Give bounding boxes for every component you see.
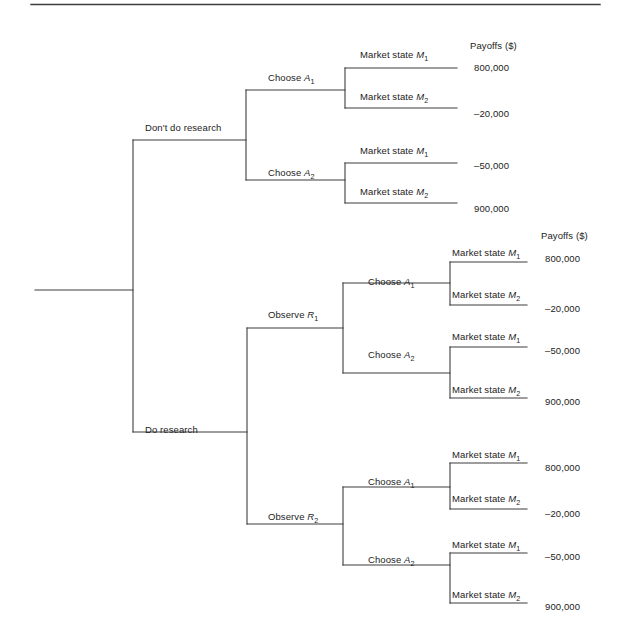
decision-tree-figure: Payoffs ($) Payoffs ($) Don't do researc…	[0, 0, 626, 643]
branch-label-choose-a2-r2: Choose A2	[368, 555, 415, 568]
choose-a1-nores-subscript: 1	[311, 77, 315, 86]
branch-label-choose-a2-r1: Choose A2	[368, 350, 415, 363]
branch-label-state-m1-a1-r2: Market state M1	[452, 450, 520, 463]
choose-a2-r1-text: Choose	[368, 349, 404, 360]
state-9-subscript: 1	[516, 454, 520, 463]
choose-a1-nores-text: Choose	[268, 72, 304, 83]
observe-r1-subscript: 1	[314, 314, 318, 323]
choose-a2-nores-subscript: 2	[311, 172, 315, 181]
branch-label-choose-a2-noresearch: Choose A2	[268, 168, 315, 181]
choose-a1-r2-subscript: 1	[411, 481, 415, 490]
branch-label-state-m2-a1-noresearch: Market state M2	[360, 92, 428, 105]
choose-a1-r1-subscript: 1	[411, 281, 415, 290]
branch-label-state-m1-a2-noresearch: Market state M1	[360, 146, 428, 159]
state-10-text: Market state	[452, 493, 508, 504]
state-10-subscript: 2	[516, 498, 520, 507]
observe-r2-subscript: 2	[314, 516, 318, 525]
payoff-value-1: 800,000	[474, 62, 509, 73]
choose-a1-r2-text: Choose	[368, 476, 404, 487]
state-12-subscript: 2	[516, 594, 520, 603]
branch-label-state-m2-a1-r1: Market state M2	[452, 290, 520, 303]
state-11-text: Market state	[452, 539, 508, 550]
observe-r1-text: Observe	[268, 309, 307, 320]
state-11-subscript: 1	[516, 544, 520, 553]
payoffs-header-bottom: Payoffs ($)	[541, 230, 588, 241]
branch-label-state-m2-a1-r2: Market state M2	[452, 494, 520, 507]
state-6-text: Market state	[452, 289, 508, 300]
branch-label-state-m1-a1-noresearch: Market state M1	[360, 50, 428, 63]
choose-a2-r2-subscript: 2	[411, 559, 415, 568]
payoff-value-9: 800,000	[545, 462, 580, 473]
payoff-value-12: 900,000	[545, 601, 580, 612]
payoff-value-4: 900,000	[474, 203, 509, 214]
branch-label-choose-a1-r2: Choose A1	[368, 477, 415, 490]
state-8-text: Market state	[452, 384, 508, 395]
payoffs-header-top: Payoffs ($)	[470, 40, 517, 51]
state-4-text: Market state	[360, 186, 416, 197]
branch-label-observe-r1: Observe R1	[268, 310, 318, 323]
state-6-subscript: 2	[516, 294, 520, 303]
payoff-value-8: 900,000	[545, 396, 580, 407]
state-2-subscript: 2	[424, 96, 428, 105]
payoff-value-6: –20,000	[545, 303, 580, 314]
observe-r2-text: Observe	[268, 511, 307, 522]
choose-a2-r1-subscript: 2	[411, 354, 415, 363]
state-2-text: Market state	[360, 91, 416, 102]
state-7-text: Market state	[452, 331, 508, 342]
branch-label-state-m2-a2-r2: Market state M2	[452, 590, 520, 603]
branch-label-choose-a1-r1: Choose A1	[368, 277, 415, 290]
state-5-text: Market state	[452, 247, 508, 258]
branch-label-choose-a1-noresearch: Choose A1	[268, 73, 315, 86]
payoff-value-2: –20,000	[474, 108, 509, 119]
state-9-text: Market state	[452, 449, 508, 460]
state-3-text: Market state	[360, 145, 416, 156]
state-1-text: Market state	[360, 49, 416, 60]
choose-a2-nores-text: Choose	[268, 167, 304, 178]
state-3-subscript: 1	[424, 150, 428, 159]
branch-label-state-m1-a2-r2: Market state M1	[452, 540, 520, 553]
branch-label-dont-do-research: Don't do research	[145, 122, 221, 133]
state-7-subscript: 1	[516, 336, 520, 345]
branch-label-state-m2-a2-r1: Market state M2	[452, 385, 520, 398]
branch-label-state-m1-a2-r1: Market state M1	[452, 332, 520, 345]
branch-label-state-m2-a2-noresearch: Market state M2	[360, 187, 428, 200]
branch-label-do-research: Do research	[145, 424, 198, 435]
state-8-subscript: 2	[516, 389, 520, 398]
branch-label-observe-r2: Observe R2	[268, 512, 318, 525]
payoff-value-5: 800,000	[545, 253, 580, 264]
state-4-subscript: 2	[424, 191, 428, 200]
choose-a2-r2-text: Choose	[368, 554, 404, 565]
payoff-value-3: –50,000	[474, 160, 509, 171]
payoff-value-7: –50,000	[545, 345, 580, 356]
payoff-value-11: –50,000	[545, 551, 580, 562]
choose-a1-r1-text: Choose	[368, 276, 404, 287]
state-5-subscript: 1	[516, 252, 520, 261]
state-12-text: Market state	[452, 589, 508, 600]
payoff-value-10: –20,000	[545, 508, 580, 519]
branch-label-state-m1-a1-r1: Market state M1	[452, 248, 520, 261]
state-1-subscript: 1	[424, 54, 428, 63]
